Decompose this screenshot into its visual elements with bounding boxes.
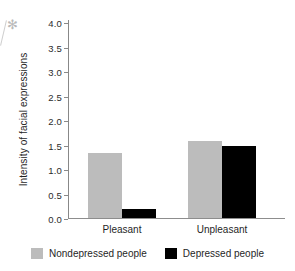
x-axis-category-label: Unpleasant: [197, 224, 248, 235]
bar: [88, 153, 122, 218]
x-axis-category-label: Pleasant: [103, 224, 142, 235]
bar: [222, 146, 256, 219]
y-tick-label: 3.0: [48, 67, 62, 78]
x-axis-line: [68, 218, 285, 219]
y-tick-label: 3.5: [48, 42, 62, 53]
y-tick-label: 2.0: [48, 116, 62, 127]
y-tick-label: 1.5: [48, 140, 62, 151]
y-tick-label: 1.0: [48, 165, 62, 176]
legend-swatch: [31, 248, 43, 259]
y-tick-label: 0.0: [48, 214, 62, 225]
y-tick-label: 0.5: [48, 189, 62, 200]
y-axis-title: Intensity of facial expressions: [17, 20, 31, 219]
legend-item: Nondepressed people: [31, 248, 147, 259]
chart-legend: Nondepressed peopleDepressed people: [0, 248, 295, 259]
legend-item: Depressed people: [165, 248, 264, 259]
y-tick-mark: [64, 48, 68, 49]
artifact-line: [0, 20, 7, 46]
plot-area: 0.00.51.01.52.02.53.03.54.0: [68, 20, 285, 219]
y-tick-mark: [64, 23, 68, 24]
bar: [188, 141, 222, 218]
y-tick-label: 2.5: [48, 91, 62, 102]
y-tick-mark: [64, 170, 68, 171]
y-axis-line: [68, 20, 69, 219]
chart-figure: ✻ Intensity of facial expressions 0.00.5…: [0, 0, 295, 271]
y-axis-title-text: Intensity of facial expressions: [19, 53, 30, 187]
y-tick-mark: [64, 121, 68, 122]
y-tick-mark: [64, 97, 68, 98]
y-tick-label: 4.0: [48, 18, 62, 29]
y-tick-mark: [64, 195, 68, 196]
bar: [122, 209, 156, 218]
legend-label: Nondepressed people: [49, 248, 147, 259]
y-tick-mark: [64, 219, 68, 220]
legend-label: Depressed people: [183, 248, 264, 259]
y-tick-mark: [64, 72, 68, 73]
y-tick-mark: [64, 146, 68, 147]
legend-swatch: [165, 248, 177, 259]
